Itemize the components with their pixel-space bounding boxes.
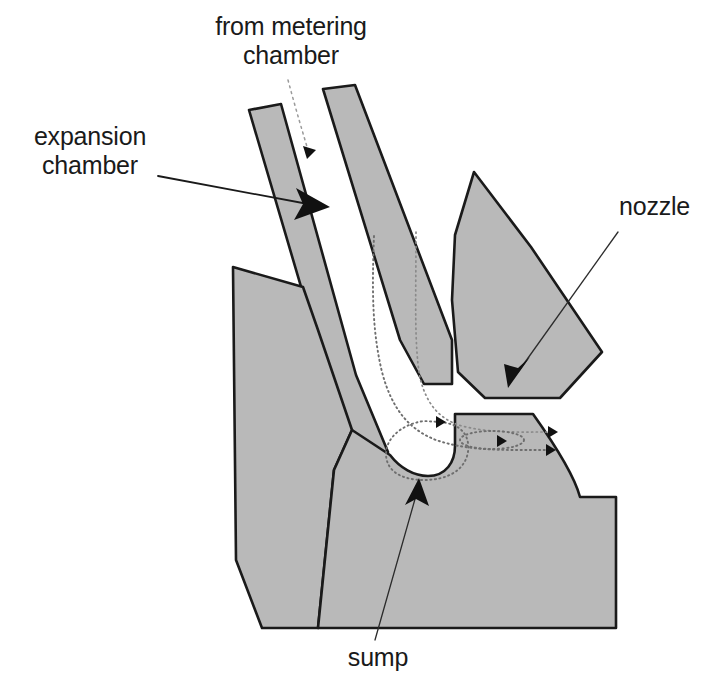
flow-arrow-tick-2	[548, 426, 558, 438]
label-sump: sump	[318, 643, 438, 672]
label-expansion-chamber: expansion chamber	[6, 122, 174, 180]
diagram-figure: from metering chamber expansion chamber …	[0, 0, 719, 690]
label-from-metering-chamber: from metering chamber	[196, 12, 386, 70]
from-metering-chamber-arrowhead	[303, 146, 316, 159]
diagram-canvas	[0, 0, 719, 690]
label-nozzle: nozzle	[619, 192, 715, 221]
